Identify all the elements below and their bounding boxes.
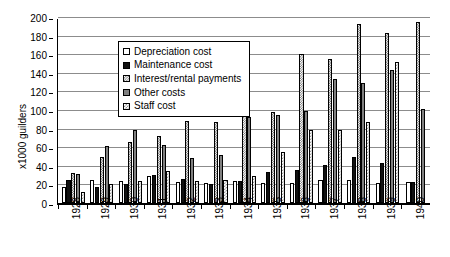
bar [62, 187, 66, 203]
y-axis-tick [49, 205, 53, 206]
bar [219, 155, 223, 203]
bar [338, 130, 342, 203]
bar [157, 136, 161, 203]
y-axis-tick [49, 56, 53, 57]
legend-label: Interest/rental payments [134, 74, 241, 84]
x-axis-tick-label: 1928 [72, 197, 82, 219]
x-axis-tick-label: 1935 [273, 197, 283, 219]
gridline [58, 17, 430, 18]
bar [380, 163, 384, 203]
y-axis-tick-label: 80 [36, 126, 47, 136]
bar [347, 180, 351, 203]
bar [209, 184, 213, 203]
bar [181, 179, 185, 203]
bar [119, 181, 123, 203]
x-axis-tick [315, 205, 316, 209]
y-axis-tick-label: 120 [30, 88, 47, 98]
y-axis-tick [49, 19, 53, 20]
bar-group [373, 19, 402, 203]
bar [261, 183, 265, 203]
y-axis-tick-label: 140 [30, 70, 47, 80]
legend-item-depreciation-cost: Depreciation cost [123, 45, 241, 59]
bar [318, 180, 322, 203]
bar [421, 109, 425, 203]
y-axis-tick [49, 112, 53, 113]
x-axis-tick [373, 205, 374, 209]
bar [299, 54, 303, 203]
x-axis-tick [172, 205, 173, 209]
legend-label: Other costs [134, 88, 185, 98]
bar [304, 111, 308, 203]
x-axis-tick-cell: 1929 [87, 206, 116, 256]
x-axis-tick [58, 205, 59, 209]
bar-group [259, 19, 288, 203]
x-axis-tick-cell: 1940 [401, 206, 430, 256]
y-axis-tick-label: 100 [30, 107, 47, 117]
x-axis-tick-cell: 1939 [373, 206, 402, 256]
y-axis-tick [49, 75, 53, 76]
bar [357, 24, 361, 203]
x-axis-tick [344, 205, 345, 209]
y-axis-tick [49, 149, 53, 150]
x-axis-tick-cell: 1931 [144, 206, 173, 256]
legend-swatch-icon-maintenance-cost [123, 62, 130, 69]
bar [247, 117, 251, 203]
legend: Depreciation cost Maintenance cost Inter… [118, 41, 250, 117]
x-axis-tick-label: 1936 [301, 197, 311, 219]
legend-swatch-icon-other-costs [123, 89, 130, 96]
legend-label: Maintenance cost [134, 60, 212, 70]
bar [390, 70, 394, 203]
x-axis-tick-cell: 1932 [172, 206, 201, 256]
bar [90, 180, 94, 203]
bar [276, 115, 280, 203]
y-axis-title: x1000 guilders [17, 82, 28, 192]
legend-swatch-icon-interest-rental-payments [123, 75, 130, 82]
bar [361, 83, 365, 203]
x-axis-tick [87, 205, 88, 209]
x-axis-tick-label: 1934 [244, 197, 254, 219]
legend-item-maintenance-cost: Maintenance cost [123, 59, 241, 73]
bar [309, 130, 313, 203]
y-axis-tick [49, 168, 53, 169]
bar [376, 183, 380, 203]
x-axis-tick [201, 205, 202, 209]
bar [290, 183, 294, 203]
bar [95, 187, 99, 203]
bar [328, 59, 332, 203]
y-axis-tick [49, 131, 53, 132]
x-axis-tick-label: 1939 [387, 197, 397, 219]
bar-group [59, 19, 88, 203]
x-axis-tick-label: 1929 [101, 197, 111, 219]
bar [147, 176, 151, 203]
bar [395, 62, 399, 203]
y-axis-tick [49, 186, 53, 187]
legend-swatch-icon-staff-cost [123, 103, 130, 110]
plot-area-wrapper: Depreciation cost Maintenance cost Inter… [57, 19, 430, 205]
y-axis-tick-label: 20 [36, 181, 47, 191]
bar [185, 121, 189, 203]
x-axis-tick-label: 1940 [416, 197, 426, 219]
legend-label: Staff cost [134, 101, 176, 111]
x-axis-tick-label: 1938 [358, 197, 368, 219]
x-axis-tick [115, 205, 116, 209]
x-axis-tick-cell: 1933 [201, 206, 230, 256]
bar [152, 175, 156, 203]
legend-label: Depreciation cost [134, 47, 211, 57]
x-axis-tick [401, 205, 402, 209]
x-axis-tick-cell: 1935 [258, 206, 287, 256]
x-axis-tick-cell: 1928 [58, 206, 87, 256]
y-axis-tick-label: 60 [36, 144, 47, 154]
x-axis-tick-label: 1930 [130, 197, 140, 219]
x-axis-tick-cell: 1934 [230, 206, 259, 256]
bar-group [316, 19, 345, 203]
x-axis-tick-cell: 1937 [315, 206, 344, 256]
bar [66, 180, 70, 203]
bar [416, 22, 420, 203]
x-axis-tick-label: 1933 [215, 197, 225, 219]
y-axis-tick-label: 180 [30, 33, 47, 43]
y-axis-tick-label: 40 [36, 163, 47, 173]
legend-item-other-costs: Other costs [123, 86, 241, 100]
x-axis-tick-cell: 1936 [287, 206, 316, 256]
bar [128, 142, 132, 203]
x-axis-tick [144, 205, 145, 209]
